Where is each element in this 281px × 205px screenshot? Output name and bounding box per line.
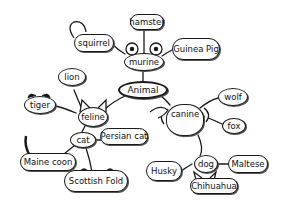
edge-cat-scottish — [86, 148, 92, 172]
node-label: canine — [171, 110, 199, 119]
node-lion[interactable]: lion — [58, 68, 86, 86]
node-squirrel[interactable]: squirrel — [74, 34, 114, 52]
node-tiger[interactable]: tiger — [24, 96, 56, 114]
node-label: Persian cat — [101, 132, 148, 141]
node-hamster[interactable]: hamster — [130, 14, 164, 30]
node-persian-cat[interactable]: Persian cat — [100, 128, 148, 145]
node-label: Maltese — [231, 160, 264, 169]
edge-feline-tiger — [56, 106, 76, 113]
node-murine[interactable]: murine — [124, 53, 164, 71]
node-husky[interactable]: Husky — [146, 161, 182, 181]
node-label: Maine coon — [24, 158, 73, 167]
node-label: squirrel — [78, 39, 110, 48]
node-maltese[interactable]: Maltese — [228, 155, 268, 173]
edge-canine-wolf — [200, 98, 218, 108]
node-label: dog — [198, 160, 214, 169]
node-label: wolf — [224, 93, 242, 102]
edge-animal-feline — [104, 95, 127, 110]
node-maine-coon[interactable]: Maine coon — [20, 153, 76, 171]
node-label: cat — [76, 136, 89, 145]
node-canine[interactable]: canine — [166, 104, 204, 136]
node-label: Animal — [127, 86, 158, 95]
node-fox[interactable]: fox — [222, 118, 246, 134]
edge-animal-canine — [160, 95, 170, 105]
node-label: Guinea Pig — [173, 45, 219, 54]
node-scottish-fold[interactable]: Scottish Fold — [64, 170, 128, 192]
node-chihuahua[interactable]: Chihuahua — [190, 178, 238, 194]
node-feline[interactable]: feline — [78, 107, 108, 127]
node-label: fox — [228, 122, 241, 131]
node-label: tiger — [30, 101, 50, 110]
node-wolf[interactable]: wolf — [218, 88, 248, 106]
node-dog[interactable]: dog — [194, 155, 218, 173]
dog-ear-right-icon — [204, 108, 209, 122]
node-label: Scottish Fold — [69, 177, 123, 186]
edge-canine-dog — [198, 135, 202, 156]
node-animal[interactable]: Animal — [118, 81, 168, 99]
node-label: feline — [81, 113, 105, 122]
node-label: Chihuahua — [191, 182, 237, 191]
node-label: murine — [129, 58, 159, 67]
node-label: lion — [64, 73, 79, 82]
node-label: Husky — [151, 167, 177, 176]
edge-murine-guineapig — [162, 50, 172, 56]
node-guinea-pig[interactable]: Guinea Pig — [172, 38, 220, 60]
edge-murine-squirrel — [112, 44, 125, 54]
node-label: hamster — [129, 18, 164, 27]
mind-map-canvas: Animal murine hamster squirrel Guinea Pi… — [0, 0, 281, 205]
node-cat[interactable]: cat — [70, 132, 96, 148]
